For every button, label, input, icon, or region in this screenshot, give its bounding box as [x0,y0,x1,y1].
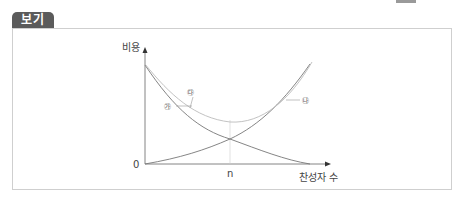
cost-diagram: 비용 0 n 찬성자 수 ㉮ ㉯ ㉰ [0,0,461,207]
n-label: n [227,168,233,179]
curve-ga [145,65,310,164]
x-axis-label: 찬성자 수 [299,172,338,183]
curve-ga-label: ㉮ [164,103,171,111]
y-axis-arrow-icon [143,47,148,53]
curve-na [145,64,310,164]
curve-da-label: ㉰ [187,89,194,97]
origin-label: 0 [133,159,139,170]
x-axis-arrow-icon [325,162,331,167]
da-leader-line [190,97,193,108]
curve-na-label: ㉯ [302,97,309,105]
y-axis-label: 비용 [122,42,140,53]
curve-da [145,62,312,122]
